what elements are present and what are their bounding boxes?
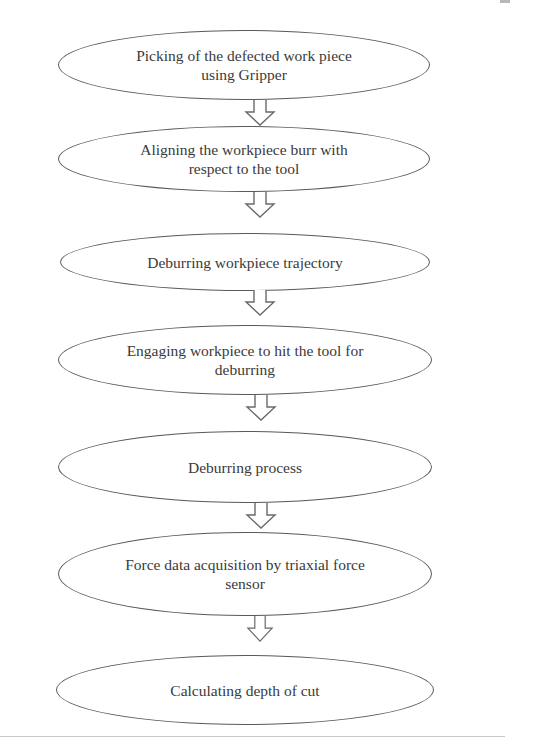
flow-step-4: Engaging workpiece to hit the tool for d… <box>58 325 432 395</box>
down-arrow-icon <box>243 290 277 316</box>
step-2-line-2: respect to the tool <box>140 159 347 178</box>
step-1-line-2: using Gripper <box>136 65 352 84</box>
flow-step-5: Deburring process <box>58 431 432 503</box>
step-6-line-1: Force data acquisition by triaxial force <box>125 555 365 574</box>
down-arrow-icon <box>243 616 277 642</box>
step-5-label: Deburring process <box>188 458 302 477</box>
step-3-label: Deburring workpiece trajectory <box>147 253 342 272</box>
flow-step-1: Picking of the defected work piece using… <box>58 30 430 100</box>
down-arrow-icon <box>243 100 277 126</box>
flow-step-6: Force data acquisition by triaxial force… <box>58 532 432 616</box>
step-6-line-2: sensor <box>125 574 365 593</box>
cropped-glyph-fragment <box>500 0 510 3</box>
page-divider <box>0 736 505 737</box>
flow-step-7: Calculating depth of cut <box>56 655 434 725</box>
down-arrow-icon <box>244 395 278 421</box>
step-7-label: Calculating depth of cut <box>170 681 319 700</box>
flow-step-3: Deburring workpiece trajectory <box>60 233 430 291</box>
flow-step-2: Aligning the workpiece burr with respect… <box>58 126 430 192</box>
step-2-line-1: Aligning the workpiece burr with <box>140 140 347 159</box>
step-4-line-2: deburring <box>127 360 364 379</box>
down-arrow-icon <box>243 192 277 218</box>
step-4-line-1: Engaging workpiece to hit the tool for <box>127 341 364 360</box>
down-arrow-icon <box>244 503 278 529</box>
step-1-line-1: Picking of the defected work piece <box>136 46 352 65</box>
